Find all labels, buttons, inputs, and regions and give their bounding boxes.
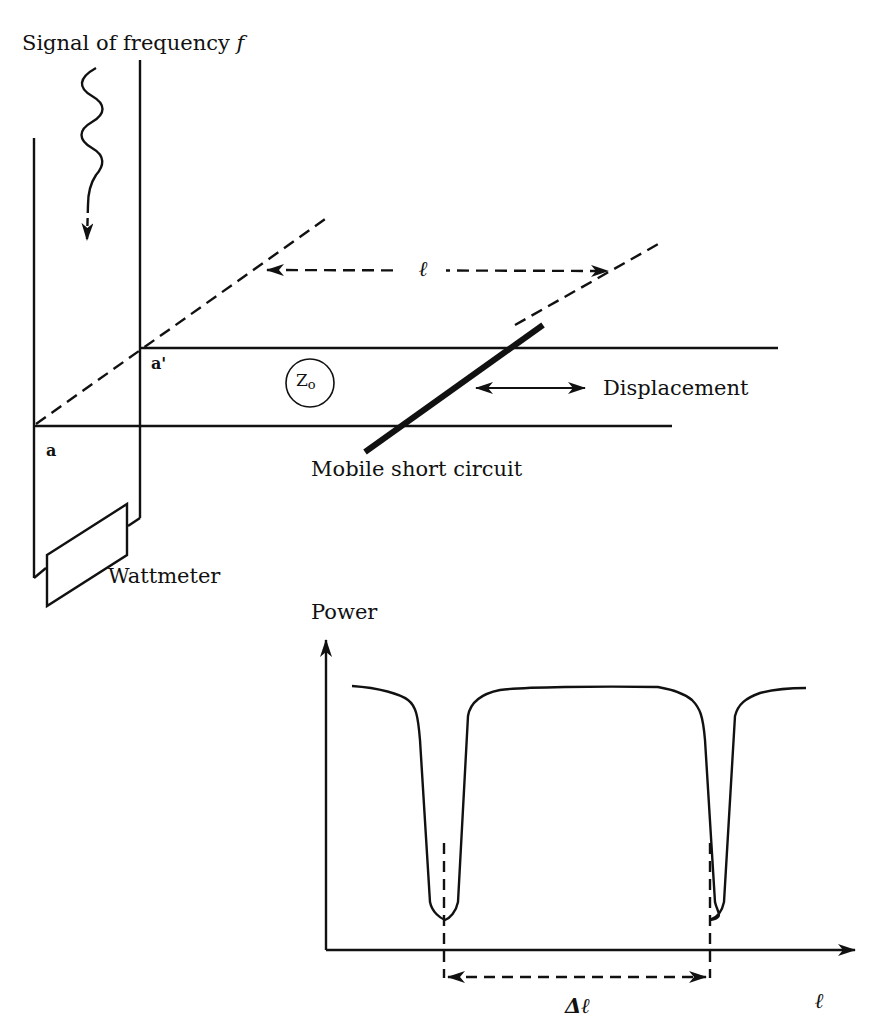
impedance-subscript: o [308, 377, 316, 392]
impedance-label: Zo [296, 372, 316, 389]
frequency-variable: f [237, 31, 245, 55]
signal-arrow-icon [87, 205, 88, 240]
signal-label: Signal of frequency f [22, 33, 244, 54]
node-a-prime-label: a' [151, 356, 166, 372]
transmission-line-diagram: Signal of frequency f ℓ a' a Zo Displace… [0, 0, 877, 1030]
short-circuit-label: Mobile short circuit [311, 459, 522, 480]
impedance-symbol: Z [296, 370, 308, 390]
node-a-label: a [46, 443, 56, 459]
wattmeter-icon [47, 504, 127, 606]
power-axis-label: Power [311, 602, 377, 623]
signal-label-text: Signal of frequency [22, 31, 230, 55]
wattmeter-label: Wattmeter [108, 566, 220, 587]
short-position-dashed [515, 243, 660, 325]
power-curve [352, 686, 806, 920]
length-label: ℓ [419, 258, 428, 279]
signal-wave-icon [82, 68, 103, 205]
diagram-drawing [0, 0, 877, 1030]
displacement-label: Displacement [603, 378, 749, 399]
reference-plane-dashed [36, 217, 328, 424]
x-axis-label: ℓ [815, 990, 824, 1011]
delta-length-label: Δℓ [565, 995, 590, 1016]
